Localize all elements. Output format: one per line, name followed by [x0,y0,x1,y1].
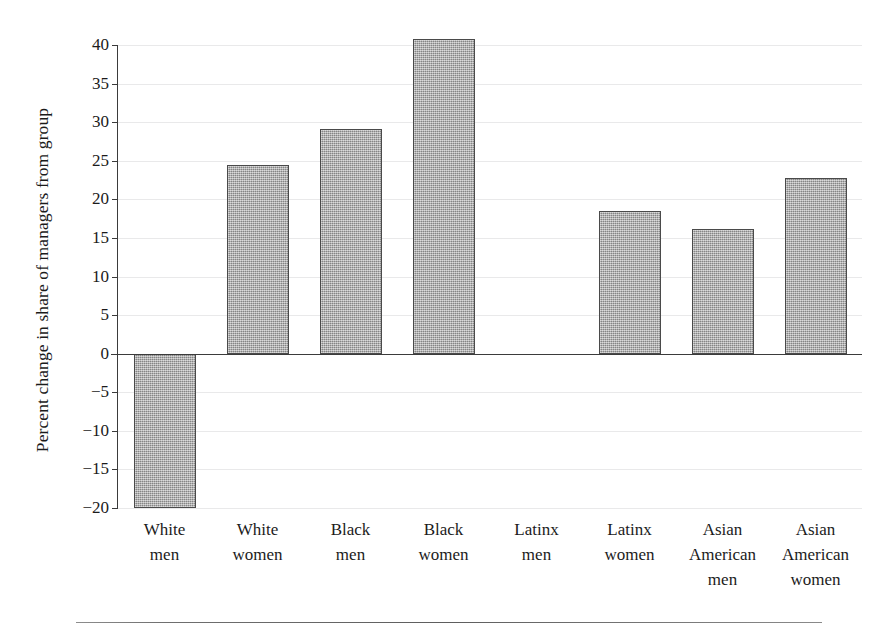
zero-baseline [111,354,862,355]
y-axis-tick-label: 0 [101,344,110,364]
x-axis-label-line: White [211,517,304,542]
x-axis-label-white-women: Whitewomen [211,517,304,567]
y-axis-tick-label: 5 [101,305,110,325]
y-axis-tick [112,392,118,393]
bar-black-women[interactable] [413,39,475,354]
y-axis-tick [112,508,118,509]
bar-latinx-women[interactable] [599,211,661,354]
figure-bottom-rule [76,622,822,623]
y-axis-tick-label: −5 [91,382,109,402]
bar-white-men[interactable] [134,354,196,508]
x-axis-label-latinx-women: Latinxwomen [583,517,676,567]
x-axis-label-white-men: Whitemen [118,517,211,567]
y-axis-tick-label: 25 [92,151,109,171]
x-axis-label-line: men [118,542,211,567]
bar-white-women[interactable] [227,165,289,353]
plot-area: 4035302520151050−5−10−15−20 WhitemenWhit… [118,45,862,508]
y-axis-tick-label: 30 [92,112,109,132]
bar-asian-american-women[interactable] [785,178,847,354]
x-axis-label-line: women [211,542,304,567]
x-axis-label-line: women [583,542,676,567]
x-axis-label-line: Black [397,517,490,542]
y-axis-tick-label: −20 [82,498,109,518]
x-axis-label-line: Latinx [583,517,676,542]
x-axis-label-black-men: Blackmen [304,517,397,567]
y-axis-tick [112,84,118,85]
y-axis-tick [112,45,118,46]
gridline [118,161,862,162]
bar-chart-figure: Percent change in share of managers from… [0,0,894,639]
x-axis-label-line: Latinx [490,517,583,542]
y-axis-tick [112,161,118,162]
y-axis-tick [112,199,118,200]
y-axis-tick [112,238,118,239]
x-axis-label-line: Asian [676,517,769,542]
y-axis-tick [112,277,118,278]
y-axis-tick-label: 15 [92,228,109,248]
y-axis-tick-label: 20 [92,189,109,209]
y-axis-tick [112,469,118,470]
bar-black-men[interactable] [320,129,382,354]
x-axis-label-line: American [676,542,769,567]
gridline [118,392,862,393]
y-axis-tick-label: 40 [92,35,109,55]
y-axis-tick-label: 10 [92,267,109,287]
gridline [118,431,862,432]
x-axis-label-line: men [490,542,583,567]
x-axis-label-line: men [304,542,397,567]
x-axis-label-asian-american-women: AsianAmericanwomen [769,517,862,592]
x-axis-label-line: Asian [769,517,862,542]
x-axis-label-asian-american-men: AsianAmericanmen [676,517,769,592]
x-axis-label-line: women [397,542,490,567]
x-axis-label-line: White [118,517,211,542]
x-axis-label-black-women: Blackwomen [397,517,490,567]
x-axis-label-line: Black [304,517,397,542]
y-axis-tick [112,315,118,316]
y-axis-tick-label: 35 [92,74,109,94]
gridline [118,45,862,46]
y-axis-title: Percent change in share of managers from… [22,0,62,560]
x-axis-label-line: women [769,567,862,592]
x-axis-label-line: American [769,542,862,567]
y-axis-tick [112,122,118,123]
gridline [118,122,862,123]
gridline [118,469,862,470]
gridline [118,84,862,85]
x-axis-label-latinx-men: Latinxmen [490,517,583,567]
x-axis-label-line: men [676,567,769,592]
gridline [118,508,862,509]
y-axis-tick-label: −10 [82,421,109,441]
bar-asian-american-men[interactable] [692,229,754,354]
y-axis-tick [112,431,118,432]
y-axis-tick-label: −15 [82,459,109,479]
